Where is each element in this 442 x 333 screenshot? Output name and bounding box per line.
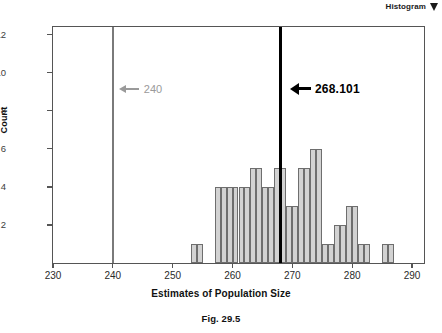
true-value-line-annotation: 240 xyxy=(119,84,162,95)
x-axis-tick-label: 250 xyxy=(151,270,195,282)
y-axis-tick-mark xyxy=(47,224,52,225)
arrow-left-icon xyxy=(290,87,310,90)
x-axis-tick-mark xyxy=(411,263,412,268)
x-axis-tick-label: 240 xyxy=(91,270,135,282)
histogram-figure: Histogram 240268.10124681012230240250260… xyxy=(0,0,442,333)
y-axis-tick-mark xyxy=(47,148,52,149)
histogram-bar xyxy=(197,244,203,263)
histogram-menu-label: Histogram xyxy=(386,3,426,11)
x-axis-tick-mark xyxy=(112,263,113,268)
plot-area: 240268.10124681012230240250260270280290 xyxy=(52,26,425,264)
x-axis-tick-mark xyxy=(52,263,53,268)
x-axis-tick-label: 270 xyxy=(270,270,314,282)
estimate-line-annotation: 268.101 xyxy=(290,83,360,95)
y-axis-tick-mark xyxy=(47,72,52,73)
y-axis-tick-label: 4 xyxy=(0,181,6,193)
estimate-line[interactable] xyxy=(279,27,282,263)
y-axis-tick-label: 6 xyxy=(0,143,6,155)
y-axis-tick-label: 10 xyxy=(0,67,6,79)
true-value-line-value: 240 xyxy=(144,84,162,95)
plot-inner: 240268.10124681012230240250260270280290 xyxy=(53,27,424,263)
arrow-left-icon xyxy=(119,88,139,90)
y-axis-tick-mark xyxy=(47,186,52,187)
x-axis-tick-label: 290 xyxy=(390,270,434,282)
x-axis-tick-label: 230 xyxy=(31,270,75,282)
x-axis-tick-mark xyxy=(292,263,293,268)
x-axis-tick-mark xyxy=(352,263,353,268)
y-axis-label: Count xyxy=(0,107,9,134)
y-axis-tick-mark xyxy=(47,110,52,111)
estimate-line-value: 268.101 xyxy=(315,83,360,95)
x-axis-tick-label: 280 xyxy=(330,270,374,282)
y-axis-tick-label: 2 xyxy=(0,219,6,231)
figure-caption: Fig. 29.5 xyxy=(0,313,442,324)
triangle-down-icon[interactable] xyxy=(430,3,438,11)
y-axis-tick-mark xyxy=(47,34,52,35)
x-axis-label: Estimates of Population Size xyxy=(0,288,442,299)
histogram-bar xyxy=(364,244,370,263)
x-axis-tick-mark xyxy=(172,263,173,268)
x-axis-tick-label: 260 xyxy=(211,270,255,282)
histogram-menu[interactable]: Histogram xyxy=(386,3,438,11)
histogram-bar xyxy=(388,244,394,263)
x-axis-tick-mark xyxy=(232,263,233,268)
true-value-line[interactable] xyxy=(112,27,114,263)
y-axis-tick-label: 12 xyxy=(0,29,6,41)
